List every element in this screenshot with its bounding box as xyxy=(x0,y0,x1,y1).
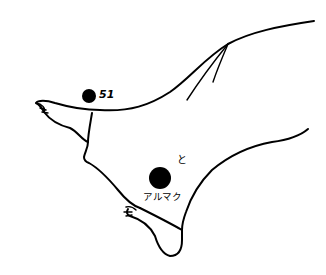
upper-leg-contour xyxy=(100,21,314,110)
diagram-canvas: 51 と アルマク xyxy=(0,0,326,275)
lower-toe-nail xyxy=(124,207,136,216)
leg-outline-drawing xyxy=(0,0,326,275)
acupoint-51-label: 51 xyxy=(99,89,114,100)
foot-pad-line xyxy=(140,208,182,230)
acupoint-arumaku-mark: と xyxy=(177,155,187,165)
acupoint-51-marker xyxy=(82,89,96,103)
lower-leg-contour xyxy=(182,129,308,230)
acupoint-arumaku-label: アルマク xyxy=(143,192,181,202)
hock-front-contour xyxy=(84,113,140,208)
acupoint-arumaku-marker xyxy=(149,167,171,189)
